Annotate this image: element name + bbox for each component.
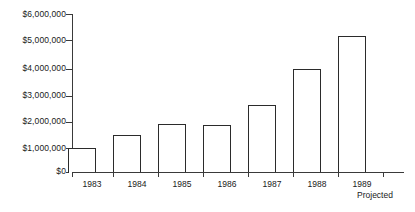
y-axis-label-5000000: $5,000,000	[22, 36, 66, 45]
y-axis-label-1000000: $1,000,000	[22, 144, 66, 153]
bar-1983	[68, 148, 96, 173]
bar-1986	[203, 125, 231, 173]
bar-1988	[293, 69, 321, 173]
x-axis-tick-2	[158, 172, 159, 177]
x-axis-tick-1	[113, 172, 114, 177]
x-axis-tick-6	[338, 172, 339, 177]
bar-1985	[158, 124, 186, 173]
x-axis-tick-0	[72, 172, 73, 177]
x-axis-line	[72, 172, 404, 173]
x-axis-tick-7	[383, 172, 384, 177]
y-axis-label-3000000: $3,000,000	[22, 91, 66, 100]
y-axis-label-6000000: $6,000,000	[22, 10, 66, 19]
bar-1987	[248, 105, 276, 173]
y-axis-label-0: $0	[56, 167, 66, 176]
plot-area	[72, 14, 404, 173]
y-axis-label-2000000: $2,000,000	[22, 117, 66, 126]
bar-1989	[338, 36, 366, 173]
x-axis-sublabel-projected: Projected	[340, 190, 410, 200]
x-axis-label-1989: 1989	[332, 179, 392, 189]
bar-chart-figure: $6,000,000 $5,000,000 $4,000,000 $3,000,…	[0, 0, 415, 212]
x-axis-tick-5	[293, 172, 294, 177]
y-axis-label-4000000: $4,000,000	[22, 64, 66, 73]
x-axis-tick-3	[203, 172, 204, 177]
x-axis-tick-4	[248, 172, 249, 177]
bar-1984	[113, 135, 141, 173]
